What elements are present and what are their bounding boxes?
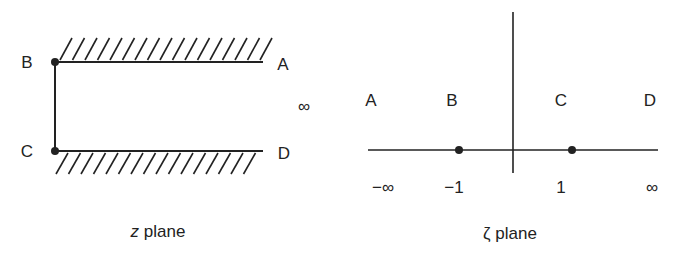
z-point-label-a: A [277,56,288,73]
z-point-label-d: D [278,145,290,162]
zeta-plane-caption: ζ plane [483,225,537,242]
axis-tick-1: 1 [556,179,565,196]
conformal-map-diagram [0,0,675,261]
caption-text: plane [139,222,185,241]
z-point-label-c: C [21,143,33,160]
axis-tick-infinity: ∞ [646,179,658,196]
zeta-point-label-b: B [446,92,457,109]
point-minus-one-dot [455,146,463,154]
z-point-label-b: B [21,54,32,71]
axis-tick-minusinfinity: −∞ [372,179,394,196]
zeta-plane-axes [368,12,658,173]
point-b-dot [51,58,59,66]
point-one-dot [568,146,576,154]
caption-text: plane [491,224,537,243]
axis-tick-minus1: −1 [444,179,463,196]
zeta-point-label-d: D [644,92,656,109]
point-c-dot [51,147,59,155]
upper-hatching [60,38,272,60]
z-variable: z [131,222,140,241]
infinity-label: ∞ [298,98,310,115]
zeta-point-label-c: C [555,92,567,109]
z-plane-strip [55,62,263,151]
zeta-point-label-a: A [365,92,376,109]
zeta-variable: ζ [483,224,491,243]
z-plane-caption: z plane [131,223,186,240]
lower-hatching [56,153,256,174]
